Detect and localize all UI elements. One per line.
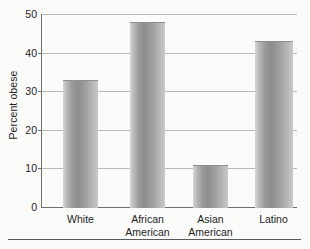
chart-figure: Percent obese 50 40 30 20 10 0 bbox=[0, 0, 310, 249]
x-tick-label-african-american: African American bbox=[114, 213, 181, 239]
y-axis-line bbox=[41, 14, 42, 208]
y-tick-label-0: 0 bbox=[31, 201, 37, 213]
y-tick-mark-10 bbox=[38, 168, 42, 169]
y-tick-mark-30 bbox=[38, 91, 42, 92]
y-tick-mark-20 bbox=[38, 130, 42, 131]
bar-african-american bbox=[130, 22, 165, 208]
y-axis-title-text: Percent obese bbox=[6, 70, 18, 139]
y-tick-label-40: 40 bbox=[25, 47, 37, 59]
x-tick-label-white-line1: White bbox=[47, 213, 114, 226]
x-tick-label-latino-line1: Latino bbox=[240, 213, 307, 226]
footer-rule bbox=[8, 239, 301, 240]
bar-asian-american bbox=[193, 165, 228, 208]
y-tick-label-20: 20 bbox=[25, 124, 37, 136]
bar-latino bbox=[255, 41, 293, 208]
y-axis-title: Percent obese bbox=[0, 0, 24, 210]
y-tick-label-50: 50 bbox=[25, 8, 37, 20]
x-tick-label-white: White bbox=[47, 213, 114, 226]
x-tick-label-african-american-line2: American bbox=[114, 226, 181, 239]
y-tick-label-30: 30 bbox=[25, 85, 37, 97]
x-tick-label-asian-american-line2: American bbox=[177, 226, 244, 239]
plot-area: 50 40 30 20 10 0 White Afric bbox=[41, 14, 297, 207]
gridline-50: 50 bbox=[42, 14, 297, 15]
x-tick-label-latino: Latino bbox=[240, 213, 307, 226]
y-tick-mark-40 bbox=[38, 53, 42, 54]
y-tick-label-10: 10 bbox=[25, 162, 37, 174]
x-tick-label-asian-american-line1: Asian bbox=[177, 213, 244, 226]
x-tick-label-african-american-line1: African bbox=[114, 213, 181, 226]
x-tick-label-asian-american: Asian American bbox=[177, 213, 244, 239]
bar-white bbox=[63, 80, 98, 208]
